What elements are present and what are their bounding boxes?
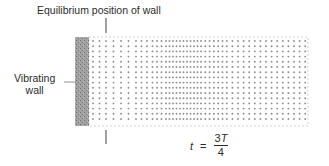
sound-wave-diagram	[0, 0, 329, 166]
fraction: 3T 4	[214, 133, 229, 158]
equals-sign: =	[200, 140, 206, 152]
time-equation: t = 3T 4	[190, 133, 228, 158]
vibrating-wall	[75, 37, 89, 126]
air-column-border	[89, 37, 308, 126]
air-molecules	[92, 40, 306, 120]
fraction-denominator: 4	[218, 146, 224, 158]
fraction-numerator: 3T	[214, 133, 229, 146]
time-variable: t	[190, 140, 193, 152]
